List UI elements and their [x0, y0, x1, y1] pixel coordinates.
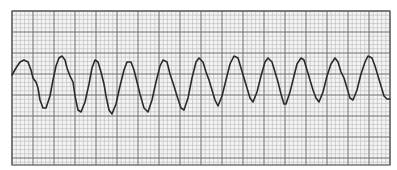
ecg-strip: [0, 0, 397, 170]
